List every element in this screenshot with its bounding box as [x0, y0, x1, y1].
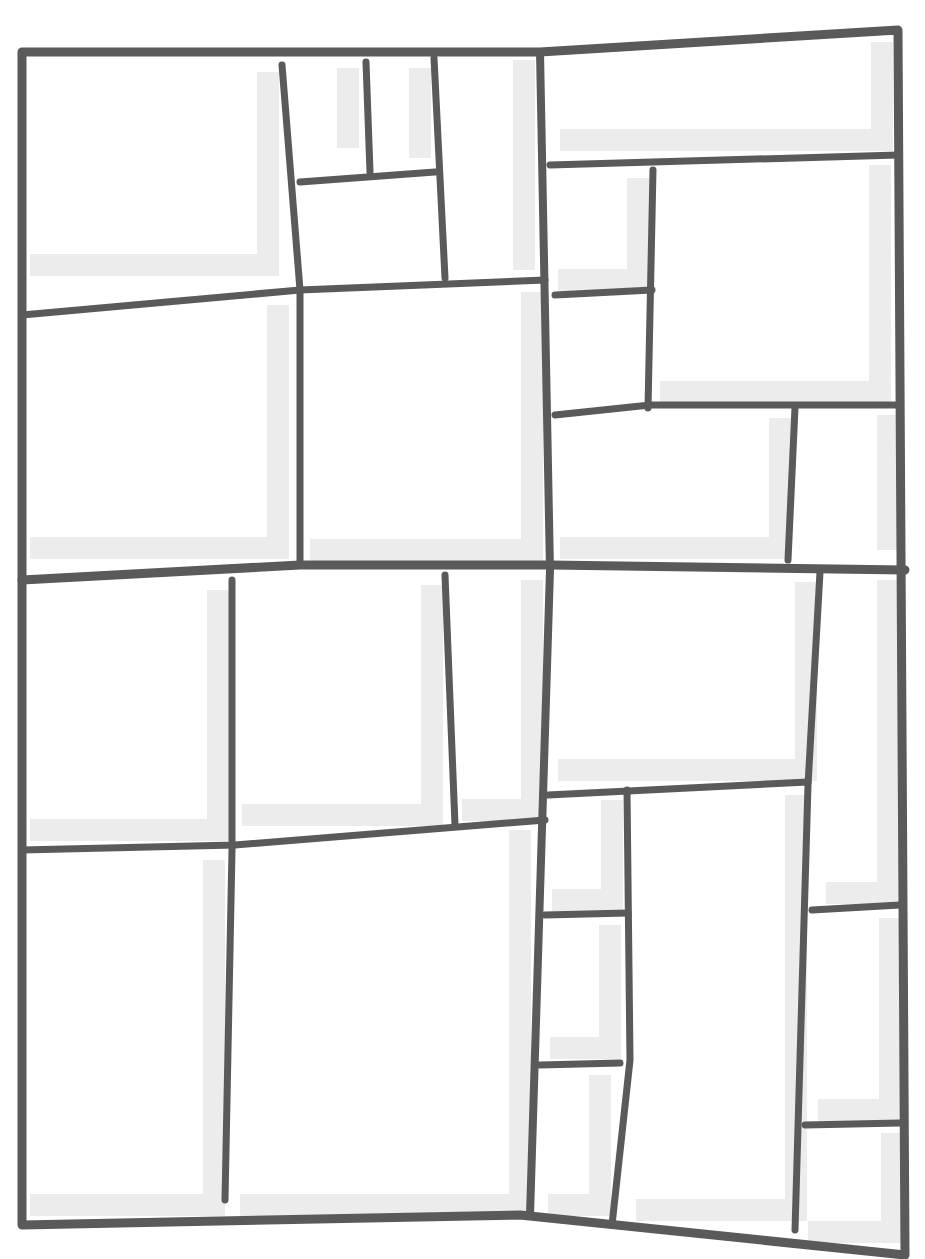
- divider-q4-h-right-1: [812, 905, 900, 910]
- hand-drawn-grid-drawing: [0, 0, 925, 1259]
- divider-q4-h-right-2: [805, 1123, 900, 1125]
- divider-q1-v-mid: [366, 62, 370, 172]
- divider-q4-h-left-2: [540, 1063, 620, 1065]
- divider-q4-h-left-1: [545, 913, 628, 915]
- divider-q2-h-small: [555, 290, 652, 295]
